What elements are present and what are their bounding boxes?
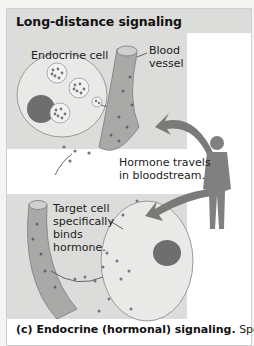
endocrine-cell-icon (17, 53, 115, 137)
caption-bold: (c) Endocrine (hormonal) signaling. (16, 323, 236, 336)
blood-vessel-label-1: Blood (149, 44, 180, 57)
target-cell-label-3: binds (53, 228, 83, 241)
target-cell-label-1: Target cell (53, 202, 109, 215)
target-cell-label-4: hormone. (53, 241, 106, 254)
figure-frame: Long-distance signaling (6, 8, 252, 346)
hormone-travels-label-1: Hormone travels (119, 156, 211, 169)
blood-vessel-label-2: vessel (149, 57, 184, 70)
target-cell-label-2: specifically (53, 215, 114, 228)
figure-caption: (c) Endocrine (hormonal) signaling. Spec… (16, 323, 254, 336)
endocrine-cell-label: Endocrine cell (31, 49, 108, 62)
hormone-travels-label-2: in bloodstream. (119, 169, 205, 182)
hormone-dots-icon (55, 145, 91, 175)
caption-text: Specialized (236, 323, 254, 336)
